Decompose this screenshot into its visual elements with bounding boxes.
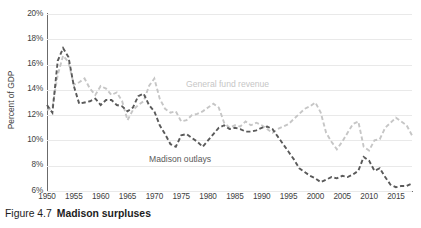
x-axis-tick: 1970 — [146, 192, 163, 201]
y-axis-tick: 20% — [27, 9, 43, 18]
x-axis-tick: 1965 — [119, 192, 136, 201]
x-axis-tick: 1995 — [280, 192, 297, 201]
series-label-general-fund-revenue: General fund revenue — [186, 79, 269, 89]
series-lines — [47, 14, 412, 191]
x-axis-tick: 2010 — [360, 192, 377, 201]
x-axis-tick: 2005 — [334, 192, 351, 201]
x-axis-tick: 1955 — [65, 192, 82, 201]
figure-container: 6%8%10%12%14%16%18%20% Percent of GDP 19… — [0, 0, 421, 228]
figure-caption: Figure 4.7Madison surpluses — [5, 208, 151, 219]
series-label-madison-outlays: Madison outlays — [149, 154, 211, 164]
caption-title: Madison surpluses — [57, 208, 151, 219]
y-axis-tick: 8% — [32, 160, 43, 169]
series-line-general-fund-revenue — [47, 56, 412, 151]
y-axis-tick: 12% — [27, 110, 43, 119]
x-axis-tick: 1975 — [172, 192, 189, 201]
y-axis-tick: 16% — [27, 59, 43, 68]
x-axis-tick-labels: 1950195519601965197019751980198519901995… — [0, 192, 421, 206]
plot-area — [47, 14, 412, 191]
caption-number: Figure 4.7 — [5, 208, 52, 219]
y-axis-tick: 14% — [27, 84, 43, 93]
x-axis-tick: 2000 — [307, 192, 324, 201]
x-axis-tick: 1990 — [253, 192, 270, 201]
x-axis-tick: 2015 — [387, 192, 404, 201]
x-axis-tick: 1950 — [38, 192, 55, 201]
y-axis-title: Percent of GDP — [6, 45, 16, 155]
y-axis-tick: 10% — [27, 135, 43, 144]
x-axis-tick: 1960 — [92, 192, 109, 201]
x-axis-tick: 1985 — [226, 192, 243, 201]
x-axis-tick: 1980 — [199, 192, 216, 201]
series-line-madison-outlays — [47, 48, 412, 187]
y-axis-tick: 18% — [27, 34, 43, 43]
